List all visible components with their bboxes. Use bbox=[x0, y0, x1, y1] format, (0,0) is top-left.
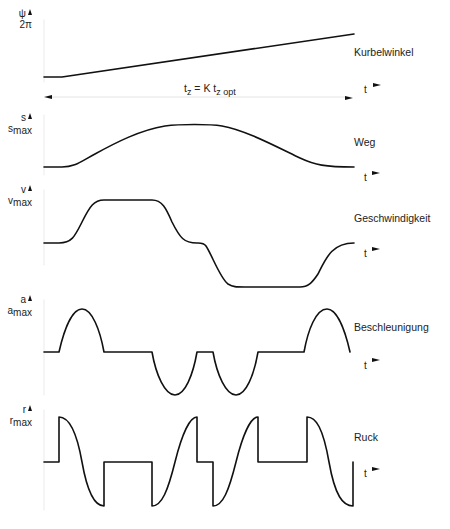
acceleration-label: Beschleunigung bbox=[354, 322, 429, 333]
crank-angle-max: 2π bbox=[20, 19, 32, 30]
crank-angle-curve bbox=[44, 34, 354, 77]
jerk-label: Ruck bbox=[354, 432, 378, 443]
velocity-curve bbox=[44, 200, 354, 287]
velocity-symbol: v bbox=[21, 184, 26, 195]
axis-arrow-up-icon bbox=[28, 113, 32, 119]
axis-arrow-up-icon bbox=[28, 9, 32, 15]
axis-arrow-up-icon bbox=[28, 405, 32, 411]
acceleration-axis-label: a amax bbox=[4, 294, 32, 318]
period-annotation: tz = K tz opt bbox=[184, 83, 236, 98]
time-axis-label: t bbox=[364, 360, 367, 371]
acceleration-symbol: a bbox=[20, 294, 26, 305]
jerk-curve bbox=[44, 417, 353, 506]
axis-arrow-up-icon bbox=[28, 295, 32, 301]
displacement-label: Weg bbox=[354, 137, 375, 148]
time-axis-label: t bbox=[364, 468, 367, 479]
velocity-max-sub: max bbox=[13, 197, 32, 208]
time-axis-label: t bbox=[364, 84, 367, 95]
time-arrow-icon bbox=[372, 247, 380, 251]
crank-angle-axis-label: ψ 2π bbox=[4, 8, 32, 30]
crank-angle-label: Kurbelwinkel bbox=[354, 47, 414, 58]
jerk-symbol: r bbox=[23, 404, 26, 415]
displacement-max-sub: max bbox=[13, 125, 32, 136]
time-axis-label: t bbox=[364, 172, 367, 183]
period-mid: = K t bbox=[191, 82, 216, 94]
time-axis-label: t bbox=[364, 248, 367, 259]
displacement-axis-label: s smax bbox=[4, 112, 32, 136]
velocity-axis-label: v vmax bbox=[4, 184, 32, 208]
time-arrow-icon bbox=[372, 467, 380, 471]
displacement-curve bbox=[44, 125, 354, 168]
axis-arrow-up-icon bbox=[28, 185, 32, 191]
acceleration-max-sub: max bbox=[13, 307, 32, 318]
jerk-axis-label: r rmax bbox=[4, 404, 32, 428]
motion-curves bbox=[0, 0, 450, 529]
time-arrow-icon bbox=[373, 83, 381, 87]
jerk-max-sub: max bbox=[13, 417, 32, 428]
time-arrow-icon bbox=[372, 358, 380, 362]
displacement-symbol: s bbox=[21, 112, 26, 123]
period-sub-zopt: z opt bbox=[216, 87, 236, 97]
acceleration-curve bbox=[44, 309, 350, 395]
crank-angle-symbol: ψ bbox=[19, 8, 26, 19]
time-arrow-icon bbox=[372, 171, 380, 175]
velocity-label: Geschwindigkeit bbox=[354, 213, 430, 224]
